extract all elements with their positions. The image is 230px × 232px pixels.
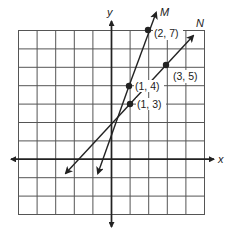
label-1-3: (1, 3) (137, 98, 162, 110)
label-2-7: (2, 7) (154, 27, 179, 39)
point-3-5 (163, 62, 169, 68)
line-m (98, 13, 156, 173)
label-3-5: (3, 5) (173, 70, 198, 82)
line-n-label: N (196, 17, 204, 29)
y-axis-label: y (106, 6, 114, 18)
point-2-7 (145, 27, 151, 33)
point-1-4 (126, 83, 132, 89)
coordinate-plane: x y M N (2, 7) (3, 5) (1, 4) (1, 3) (0, 0, 230, 232)
label-1-4: (1, 4) (135, 80, 160, 92)
x-axis-label: x (217, 153, 224, 165)
point-1-3 (127, 101, 133, 107)
line-m-label: M (160, 6, 170, 18)
